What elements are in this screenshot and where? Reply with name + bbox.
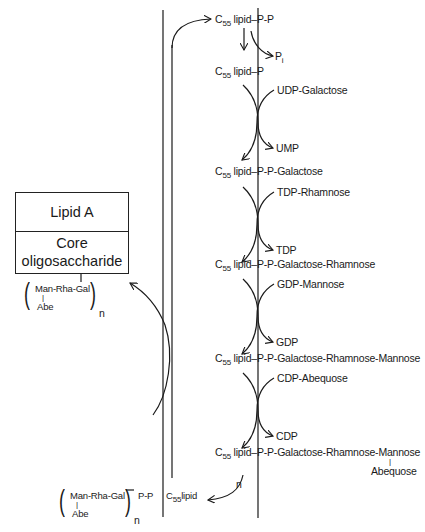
donor-3: GDP-Mannose xyxy=(277,278,344,290)
ligation-arrow xyxy=(130,283,170,415)
close-paren-attached: ) xyxy=(90,279,96,309)
intermediate-4: C55 lipid–P-P-Galactose-Rhamnose-Mannose xyxy=(215,352,420,364)
core-oligosaccharide-label: Core oligosaccharide xyxy=(16,231,128,273)
tail: P-P xyxy=(257,13,274,25)
recycle-arrow xyxy=(172,19,211,48)
i-sub: i xyxy=(282,56,284,65)
donor-1: UDP-Galactose xyxy=(277,84,347,96)
close-paren-polymer: ) xyxy=(125,486,131,516)
tail: P xyxy=(257,65,264,77)
open-paren-attached: ( xyxy=(24,279,30,309)
polymer-subscript-n: n xyxy=(134,514,140,526)
attached-branch: Abe xyxy=(37,301,53,313)
tail: P-P-Galactose-Rhamnose-Mannose xyxy=(257,352,420,364)
lipid-a-label: Lipid A xyxy=(16,193,128,232)
core-line2: oligosaccharide xyxy=(22,252,123,270)
c-sub: 55 xyxy=(222,264,231,273)
c-sub: 55 xyxy=(222,71,231,80)
lipid-word: lipid xyxy=(231,446,251,458)
c-sub: 55 xyxy=(222,452,231,461)
polymer-carrier: C55lipid xyxy=(166,490,197,502)
final-branch: Abequose xyxy=(371,465,417,477)
product-4: CDP xyxy=(276,430,298,442)
arrow-release-pi xyxy=(251,31,273,56)
open-paren-polymer: ( xyxy=(59,486,65,516)
tail: P-P-Galactose-Rhamnose-Mannose xyxy=(257,446,420,458)
lipid-a-core-box: Lipid A Core oligosaccharide xyxy=(15,192,129,274)
lipid-word: lipid xyxy=(231,65,251,77)
pi-label: Pi xyxy=(275,50,283,62)
core-line1: Core xyxy=(56,234,87,252)
donor-2: TDP-Rhamnose xyxy=(277,186,350,198)
lipid-word: lipid xyxy=(231,165,251,177)
c-sub: 55 xyxy=(173,495,182,504)
tail: P-P-Galactose-Rhamnose xyxy=(257,258,375,270)
lipid-word: lipid xyxy=(231,13,251,25)
intermediate-2: C55 lipid–P-P-Galactose xyxy=(215,165,323,177)
c-sub: 55 xyxy=(222,358,231,367)
attached-subscript-n: n xyxy=(99,307,105,319)
tail: P-P-Galactose xyxy=(257,165,323,177)
c-prefix: C xyxy=(166,490,173,501)
product-2: TDP xyxy=(276,244,296,256)
polymer-chain: Man-Rha-Gal xyxy=(70,490,125,502)
repeat-n-label: n xyxy=(236,478,242,490)
carrier-pp: C55 lipid–P-P xyxy=(215,13,274,25)
c-sub: 55 xyxy=(222,171,231,180)
intermediate-3: C55 lipid–P-P-Galactose-Rhamnose xyxy=(215,258,375,270)
donor-4: CDP-Abequose xyxy=(277,372,348,384)
c-sub: 55 xyxy=(222,19,231,28)
lipid-word: lipid xyxy=(181,490,197,501)
lipid-word: lipid xyxy=(231,352,251,364)
polymer-link: P-P xyxy=(138,490,153,502)
product-3: GDP xyxy=(276,336,298,348)
polymer-branch: Abe xyxy=(72,508,88,520)
product-1: UMP xyxy=(276,142,299,154)
lipid-word: lipid xyxy=(231,258,251,270)
intermediate-1: C55 lipid–P xyxy=(215,65,264,77)
p-letter: P xyxy=(275,50,282,62)
